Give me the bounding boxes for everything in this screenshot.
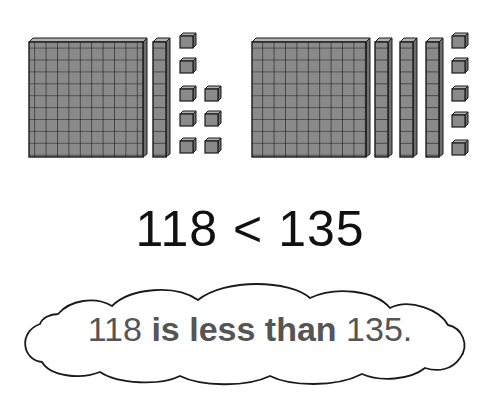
sentence-first-number: 118: [88, 310, 142, 348]
right-number: 135: [278, 201, 364, 257]
sentence-second-number: 135.: [346, 310, 412, 348]
left-number: 118: [135, 201, 218, 257]
hundreds-flat-right: [252, 38, 370, 157]
less-than-symbol: <: [233, 201, 263, 257]
comparison-sentence: 118 is less than 135.: [0, 310, 500, 349]
tens-rod-left: [153, 38, 170, 157]
ones-cubes-left: [180, 33, 221, 153]
comparison-expression: 118 < 135: [0, 200, 500, 258]
ones-cubes-right: [452, 33, 468, 155]
sentence-phrase: is less than: [151, 310, 336, 348]
base-ten-blocks: [0, 0, 500, 180]
tens-rods-right: [375, 38, 443, 157]
hundreds-flat-left: [29, 38, 147, 157]
